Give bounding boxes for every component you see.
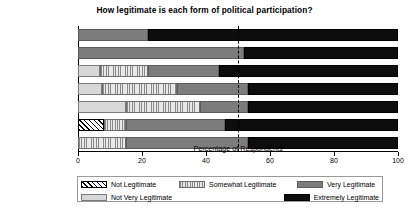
legend-item-not-legitimate: Not Legitimate <box>81 179 179 189</box>
bar-segment <box>219 65 398 77</box>
x-axis-title: Percentage of Respondents <box>78 144 398 153</box>
plot-area: 020406080100 VotingVolunteeringContactin… <box>78 26 398 152</box>
bar-segment <box>100 65 148 77</box>
swatch-extremely-legitimate-icon <box>284 194 310 201</box>
legend-item-somewhat-legitimate: Somewhat Legitimate <box>179 179 297 189</box>
x-tick <box>398 152 399 156</box>
bar-segment <box>78 101 126 113</box>
swatch-not-legitimate-icon <box>81 181 107 188</box>
bar-segment <box>200 101 248 113</box>
bar-segment <box>248 101 398 113</box>
bar-segment <box>78 29 148 41</box>
legend-label-extremely-legitimate: Extremely Legitimate <box>314 194 379 201</box>
legend-label-very-legitimate: Very Legitimate <box>327 181 375 188</box>
chart-legend: Not Legitimate Somewhat Legitimate Very … <box>77 176 383 202</box>
legend-item-very-legitimate: Very Legitimate <box>297 179 375 189</box>
legend-item-not-very-legitimate: Not Very Legitimate <box>81 192 173 202</box>
swatch-somewhat-legitimate-icon <box>179 181 205 188</box>
chart-container: How legitimate is each form of political… <box>0 0 409 208</box>
x-tick-label: 40 <box>202 157 210 164</box>
legend-item-extremely-legitimate: Extremely Legitimate <box>284 192 379 202</box>
bar-segment <box>78 119 104 131</box>
legend-label-not-legitimate: Not Legitimate <box>111 181 156 188</box>
x-tick-label: 20 <box>138 157 146 164</box>
swatch-not-very-legitimate-icon <box>81 194 107 201</box>
bar-segment <box>126 101 200 113</box>
legend-label-not-very-legitimate: Not Very Legitimate <box>111 194 172 201</box>
bar-segment <box>104 119 126 131</box>
bar-segment <box>78 65 100 77</box>
bar-segment <box>126 119 225 131</box>
legend-label-somewhat-legitimate: Somewhat Legitimate <box>209 181 276 188</box>
bar-segment <box>248 83 398 95</box>
bar-segment <box>78 47 244 59</box>
reference-line-50 <box>238 26 239 152</box>
x-tick-label: 0 <box>76 157 80 164</box>
x-tick-label: 80 <box>330 157 338 164</box>
bar-segment <box>225 119 398 131</box>
bar-segment <box>78 83 102 95</box>
bar-segment <box>244 47 398 59</box>
x-tick-label: 60 <box>266 157 274 164</box>
legend-row-1: Not Legitimate Somewhat Legitimate Very … <box>81 179 379 189</box>
legend-row-2: Not Very Legitimate Extremely Legitimate <box>81 192 379 202</box>
legend-spacer <box>173 192 284 202</box>
x-tick-label: 100 <box>392 157 404 164</box>
bar-segment <box>148 65 218 77</box>
bar-segment <box>148 29 398 41</box>
bar-segment <box>102 83 177 95</box>
swatch-very-legitimate-icon <box>297 181 323 188</box>
chart-title: How legitimate is each form of political… <box>0 5 409 15</box>
